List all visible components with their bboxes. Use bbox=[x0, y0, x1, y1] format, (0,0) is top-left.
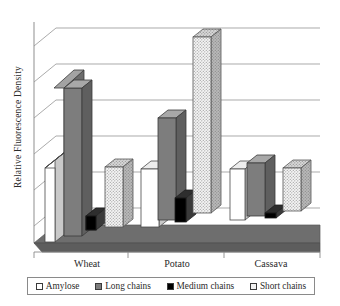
chart-figure: Relative Fluorescence Density bbox=[0, 0, 340, 306]
legend-item-amylose: Amylose bbox=[36, 281, 80, 291]
bar-group-wheat bbox=[45, 70, 133, 242]
bar-potato-short-chains bbox=[193, 29, 221, 213]
legend-item-long-chains: Long chains bbox=[95, 281, 151, 291]
legend-label-short-chains: Short chains bbox=[260, 281, 306, 291]
bar-group-cassava bbox=[230, 155, 311, 220]
x-axis-label-potato: Potato bbox=[142, 258, 212, 269]
legend-item-medium-chains: Medium chains bbox=[167, 281, 235, 291]
x-axis-label-cassava: Cassava bbox=[232, 258, 310, 269]
legend-label-amylose: Amylose bbox=[46, 281, 80, 291]
legend-swatch-amylose-icon bbox=[36, 283, 43, 290]
bar-cassava-short-chains bbox=[283, 160, 311, 211]
bar-wheat-short-chains bbox=[105, 159, 133, 227]
legend-swatch-medium-chains-icon bbox=[167, 283, 174, 290]
legend-swatch-long-chains-icon bbox=[95, 283, 102, 290]
legend-label-long-chains: Long chains bbox=[105, 281, 151, 291]
bar-group-potato bbox=[141, 29, 221, 227]
legend-swatch-short-chains-icon bbox=[250, 283, 257, 290]
bar-cassava-long-chains bbox=[247, 155, 275, 216]
x-axis-label-wheat: Wheat bbox=[52, 258, 122, 269]
chart-legend: Amylose Long chains Medium chains Short … bbox=[27, 277, 315, 295]
bar-wheat-amylose bbox=[45, 152, 65, 242]
legend-item-short-chains: Short chains bbox=[250, 281, 306, 291]
y-axis-title: Relative Fluorescence Density bbox=[13, 17, 23, 237]
legend-label-medium-chains: Medium chains bbox=[177, 281, 235, 291]
